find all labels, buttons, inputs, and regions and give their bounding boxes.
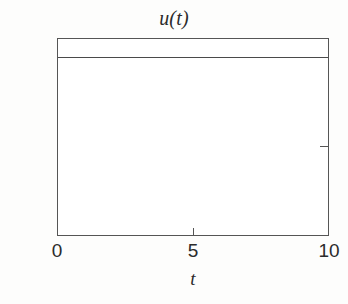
xaxis-tick-5 <box>193 228 194 235</box>
xtick-label-5: 5 <box>188 240 199 262</box>
xtick-label-0: 0 <box>52 240 63 262</box>
xtick-label-10: 10 <box>318 240 339 262</box>
xaxis-label: t <box>57 268 329 290</box>
plot-area <box>57 38 329 236</box>
chart-title: u(t) <box>0 7 348 30</box>
plot-inner <box>58 39 328 235</box>
figure-container: u(t) 1 0.5 0 0 5 10 t <box>0 0 348 304</box>
series-line-u <box>58 57 328 58</box>
yaxis-tick-right-0p5 <box>320 146 328 147</box>
